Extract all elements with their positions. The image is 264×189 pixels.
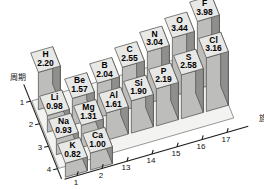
bar-value-label: 3.04 [146,37,163,47]
y-tick-label-3: 3 [38,143,43,152]
y-axis-title: 周期 [10,73,26,82]
bar-value-label: 2.04 [96,69,113,79]
bar-value-label: 3.98 [196,7,213,17]
y-tick-mark [53,169,57,170]
x-tick-label-14: 14 [147,156,156,165]
x-axis-title: 族 [259,113,264,123]
y-tick-mark [44,146,48,147]
bar-value-label: 2.58 [180,60,197,70]
x-tick-label-16: 16 [197,142,206,151]
bar-value-label: 0.82 [64,149,81,159]
x-tick-label-13: 13 [122,163,131,172]
bar-value-label: 1.00 [89,139,106,149]
bar-value-label: 2.20 [37,58,54,68]
y-tick-label-2: 2 [29,120,34,129]
electronegativity-3d-bar-chart: H2.20Li0.98Be1.57B2.04C2.55N3.04O3.44F3.… [0,0,264,189]
y-tick-mark [26,101,30,102]
chart-canvas: H2.20Li0.98Be1.57B2.04C2.55N3.04O3.44F3.… [0,0,264,189]
x-tick-label-1: 1 [74,178,79,187]
bar-value-label: 1.90 [130,86,147,96]
bar-value-label: 1.57 [71,84,88,94]
y-tick-mark [35,124,39,125]
bar-value-label: 0.93 [55,125,72,135]
x-tick-label-2: 2 [99,171,104,180]
x-tick-label-17: 17 [222,135,231,144]
y-tick-label-1: 1 [20,98,25,107]
x-tick-label-15: 15 [172,149,181,158]
bar-value-label: 2.19 [155,74,172,84]
bar-value-label: 1.31 [80,111,97,121]
y-tick-label-4: 4 [47,165,52,174]
bar-value-label: 0.98 [46,101,63,111]
bar-value-label: 2.55 [121,53,138,63]
bar-value-label: 1.61 [105,99,122,109]
bar-value-label: 3.44 [171,23,188,33]
bar-value-label: 3.16 [205,43,222,53]
